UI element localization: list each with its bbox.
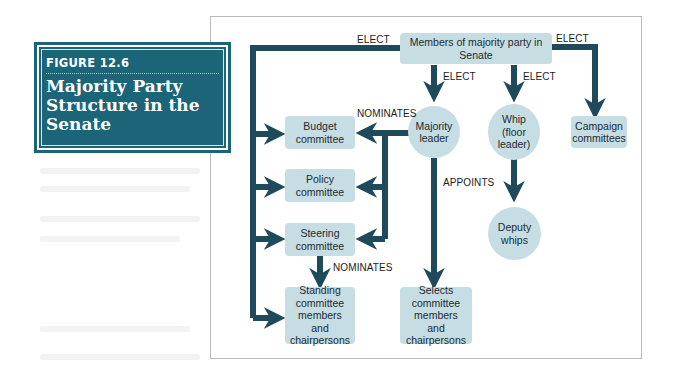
node-budget-committee: Budget committee: [285, 116, 355, 149]
label-nominates-leader: NOMINATES: [357, 108, 417, 119]
node-whip: Whip (floor leader): [488, 104, 540, 160]
node-members-majority-party: Members of majority party in Senate: [400, 33, 552, 64]
label-elect-whip: ELECT: [523, 71, 556, 82]
label-appoints: APPOINTS: [443, 177, 494, 188]
node-standing-committee: Standing committee members and chairpers…: [285, 287, 355, 344]
label-nominates-steering: NOMINATES: [333, 262, 393, 273]
node-policy-committee: Policy committee: [285, 169, 355, 202]
arrow-to-campaign: [552, 47, 595, 113]
node-campaign-committees: Campaign committees: [571, 116, 627, 148]
label-elect-right: ELECT: [556, 33, 589, 44]
node-steering-committee: Steering committee: [285, 223, 355, 256]
label-elect-left: ELECT: [357, 34, 390, 45]
label-elect-leader: ELECT: [443, 71, 476, 82]
node-selects-committee: Selects committee members and chairperso…: [400, 287, 472, 344]
node-deputy-whips: Deputy whips: [488, 207, 541, 260]
